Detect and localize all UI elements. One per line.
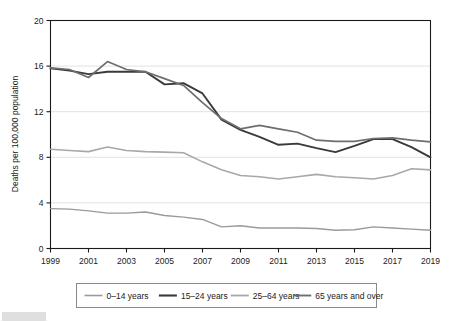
series-line-0 [51, 209, 431, 231]
plot-border [51, 21, 431, 249]
page-artifact [2, 312, 46, 321]
x-tick-label: 2005 [155, 256, 174, 266]
legend-label-1: 15–24 years [181, 291, 228, 301]
x-tick-label: 2003 [117, 256, 136, 266]
y-tick-label: 16 [34, 61, 44, 71]
legend-label-2: 25–64 years [253, 291, 300, 301]
y-tick-label: 12 [34, 107, 44, 117]
x-tick-label: 1999 [41, 256, 60, 266]
y-axis: 048121620 [34, 16, 50, 254]
series-group [51, 62, 431, 231]
legend-label-3: 65 years and over [315, 291, 383, 301]
x-tick-label: 2013 [307, 256, 326, 266]
chart-figure: 0481216201999200120032005200720092011201… [0, 0, 452, 322]
x-tick-label: 2009 [231, 256, 250, 266]
x-tick-label: 2015 [345, 256, 364, 266]
legend-label-0: 0–14 years [107, 291, 149, 301]
x-tick-label: 2007 [193, 256, 212, 266]
y-tick-label: 0 [39, 244, 44, 254]
x-axis: 1999200120032005200720092011201320152017… [41, 249, 440, 266]
x-tick-label: 2011 [269, 256, 288, 266]
plot-frame [51, 21, 431, 249]
y-tick-label: 8 [39, 152, 44, 162]
x-tick-label: 2001 [79, 256, 98, 266]
series-line-1 [51, 68, 431, 157]
y-tick-label: 20 [34, 16, 44, 26]
series-line-2 [51, 147, 431, 179]
y-axis-title: Deaths per 100,000 population [10, 76, 20, 193]
line-chart: 0481216201999200120032005200720092011201… [0, 0, 452, 322]
legend: 0–14 years15–24 years25–64 years65 years… [77, 284, 384, 308]
x-tick-label: 2019 [421, 256, 440, 266]
x-tick-label: 2017 [383, 256, 402, 266]
y-tick-label: 4 [39, 198, 44, 208]
